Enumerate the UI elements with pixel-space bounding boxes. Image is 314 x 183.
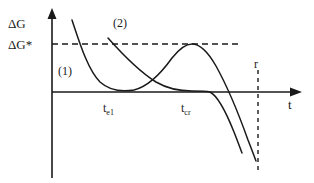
x-axis-arrow-icon bbox=[290, 88, 302, 97]
y-axis-label: ΔG bbox=[8, 17, 26, 30]
plot-area bbox=[0, 0, 314, 183]
t-e1-subscript: e1 bbox=[106, 108, 114, 117]
curve-1-path bbox=[72, 20, 256, 161]
curve-2-label: (2) bbox=[113, 17, 127, 29]
t-cr-subscript: cr bbox=[184, 108, 190, 117]
r-line-label: r bbox=[254, 58, 258, 70]
curve-1-label: (1) bbox=[58, 65, 72, 77]
y-axis-arrow-icon bbox=[48, 8, 57, 19]
free-energy-diagram: ΔG ΔG* t (1) (2) te1 tcr r bbox=[0, 0, 314, 183]
x-axis-label: t bbox=[288, 98, 292, 111]
t-e1-tick-label: te1 bbox=[103, 102, 114, 117]
t-cr-tick-label: tcr bbox=[181, 102, 191, 117]
y-threshold-label: ΔG* bbox=[8, 38, 32, 51]
